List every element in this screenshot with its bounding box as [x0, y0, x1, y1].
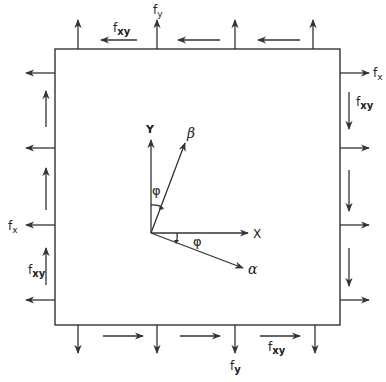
- fx-left-label: fx: [8, 219, 18, 235]
- fy-bottom-label: fy: [230, 359, 241, 375]
- beta-label: β: [186, 125, 195, 141]
- y-axis-label: Y: [145, 123, 155, 136]
- fy-top-label: fy: [153, 3, 163, 19]
- stress-element-diagram: fy fxy fx fxy fx fxy fy: [0, 0, 386, 382]
- fx-right-label: fx: [373, 66, 383, 82]
- phi-lower-label: φ: [193, 234, 202, 249]
- fxy-left-label: fxy: [28, 263, 46, 279]
- alpha-label: α: [248, 261, 258, 277]
- stress-element-box: [55, 49, 340, 325]
- fxy-bottom-label: fxy: [268, 340, 286, 356]
- x-axis-label: X: [253, 227, 261, 241]
- fxy-top-label: fxy: [113, 21, 131, 37]
- fxy-right-label: fxy: [356, 95, 374, 111]
- phi-upper-label: φ: [152, 183, 161, 198]
